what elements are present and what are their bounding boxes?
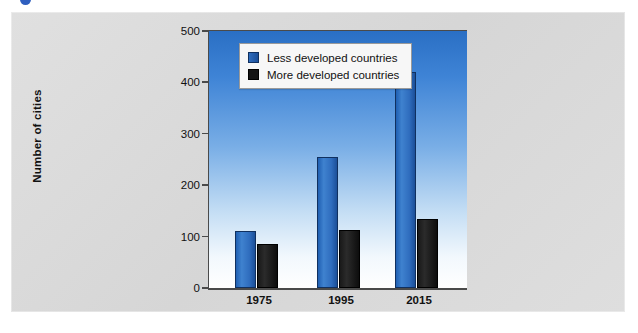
figure-panel: Number of cities 500 400 300 200 100 0	[11, 12, 625, 312]
legend-label-more-developed: More developed countries	[267, 69, 399, 81]
legend-swatch-black-square-icon	[248, 69, 259, 80]
legend-item-more-developed[interactable]: More developed countries	[248, 66, 399, 83]
y-tick-label-200: 200	[181, 178, 200, 192]
bar-less-developed-2015[interactable]	[395, 72, 416, 288]
bar-less-developed-1975[interactable]	[235, 231, 256, 288]
y-tick-100: 100	[161, 230, 209, 244]
bar-more-developed-2015[interactable]	[417, 219, 438, 288]
legend-swatch-blue-square-icon	[248, 52, 259, 63]
bar-less-developed-1995[interactable]	[317, 157, 338, 288]
y-tick-label-400: 400	[181, 75, 200, 89]
y-tick-400: 400	[161, 75, 209, 89]
x-tick-label-1995: 1995	[298, 294, 384, 306]
bar-more-developed-1995[interactable]	[339, 230, 360, 288]
y-tick-label-500: 500	[181, 24, 200, 38]
y-tick-200: 200	[161, 178, 209, 192]
legend-label-less-developed: Less developed countries	[267, 52, 397, 64]
y-tick-0: 0	[161, 281, 209, 295]
y-axis-title: Number of cities	[31, 66, 43, 206]
y-tick-300: 300	[161, 127, 209, 141]
x-tick-label-2015: 2015	[376, 294, 462, 306]
bar-more-developed-1975[interactable]	[257, 244, 278, 288]
chart-legend: Less developed countries More developed …	[239, 43, 412, 89]
y-tick-500: 500	[161, 24, 209, 38]
y-tick-label-100: 100	[181, 230, 200, 244]
caption-bullet-icon	[20, 0, 31, 5]
bar-chart: Number of cities 500 400 300 200 100 0	[11, 12, 625, 312]
x-tick-label-1975: 1975	[216, 294, 302, 306]
x-axis-line	[208, 288, 467, 290]
legend-item-less-developed[interactable]: Less developed countries	[248, 49, 399, 66]
y-tick-label-300: 300	[181, 127, 200, 141]
y-tick-label-0: 0	[194, 281, 200, 295]
